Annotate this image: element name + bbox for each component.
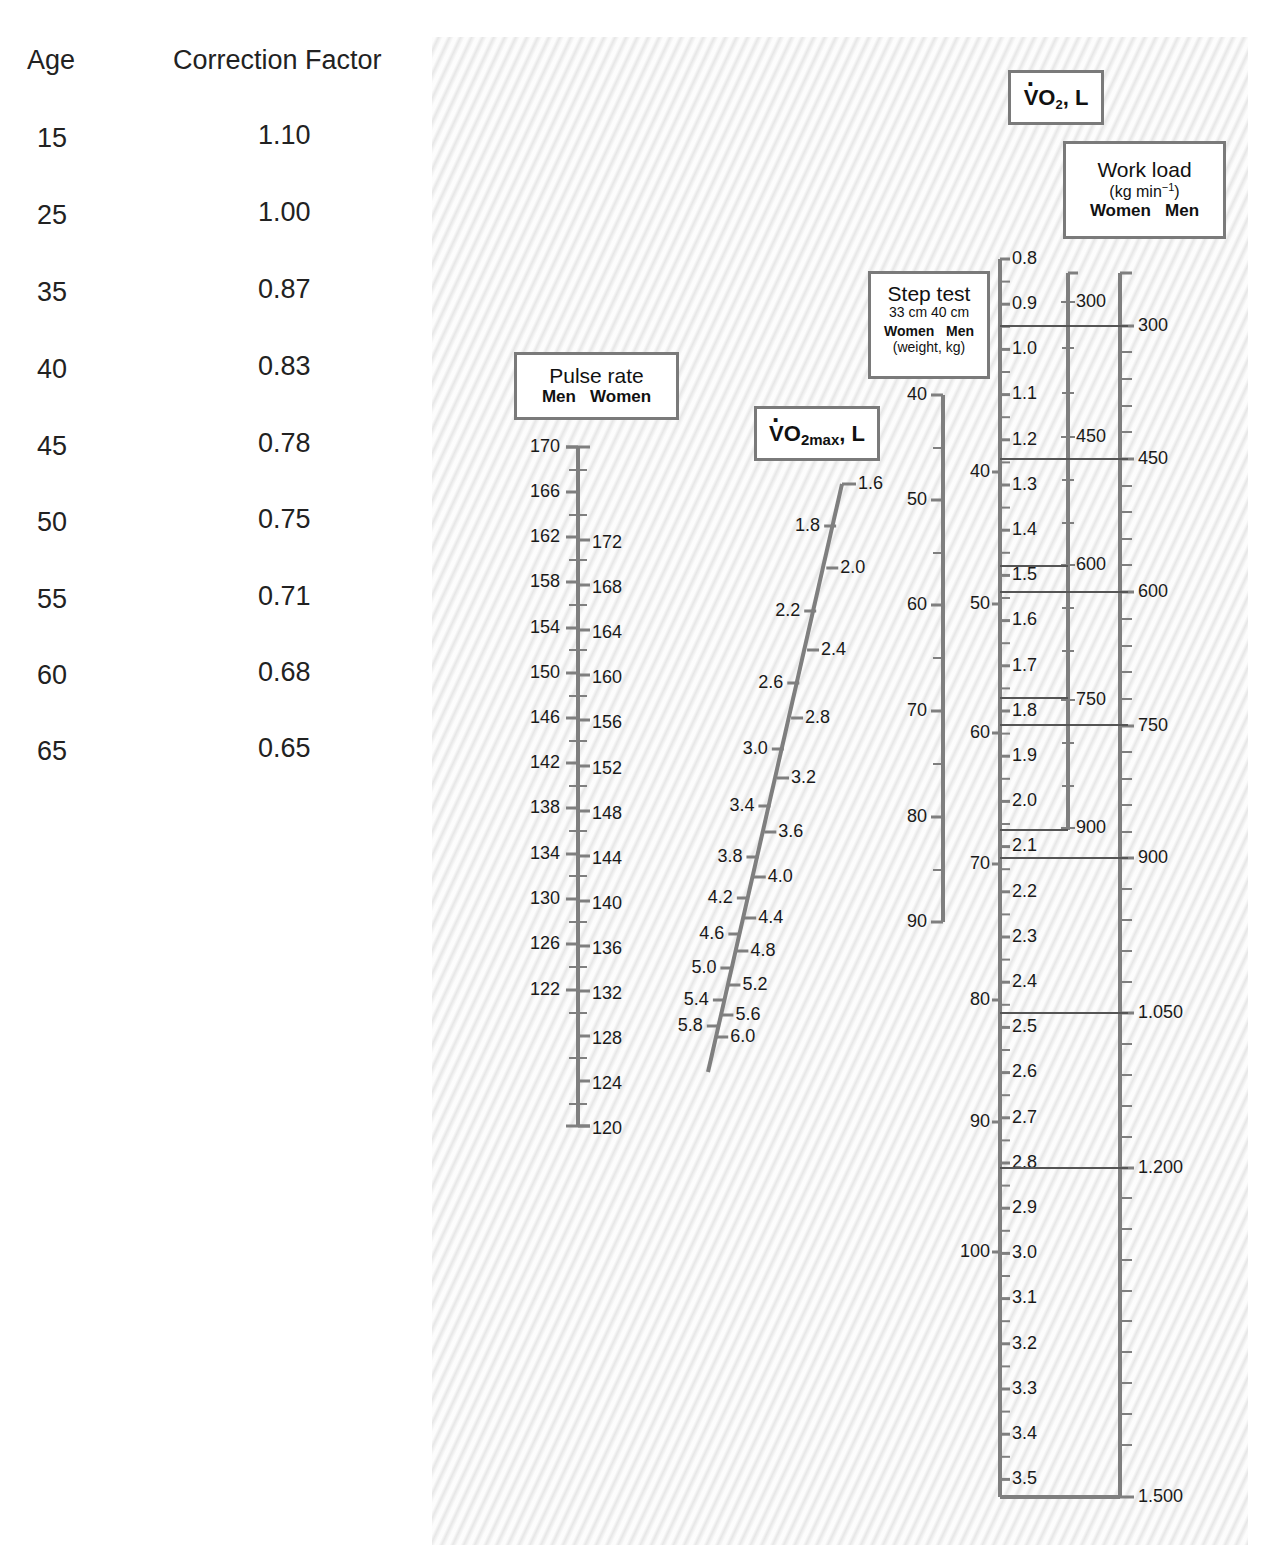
vo2max-left-label: 2.6: [758, 672, 783, 692]
vo2max-left-label: 2.2: [775, 600, 800, 620]
workload-unit-text: (kg min: [1109, 183, 1161, 200]
step-men-label: 100: [960, 1241, 990, 1261]
vo2max-o: O: [784, 421, 801, 446]
vo2-label-tick: 2.1: [1012, 835, 1037, 855]
workload-men-label: 600: [1138, 581, 1168, 601]
vo2-label-tick: 3.0: [1012, 1242, 1037, 1262]
workload-sex: Women Men: [1066, 201, 1223, 221]
vo2max-left-label: 1.8: [795, 515, 820, 535]
vo2-label-tick: 1.7: [1012, 655, 1037, 675]
vo2-label-tick: 1.2: [1012, 429, 1037, 449]
pulse-men-label: 138: [530, 797, 560, 817]
vo2max-right-label: 4.0: [768, 866, 793, 886]
vo2-label: VO2, L: [1008, 70, 1104, 125]
workload-women-label: 600: [1076, 554, 1106, 574]
step-women-label: 60: [907, 594, 927, 614]
pulse-men-label: 146: [530, 707, 560, 727]
workload-men-label: 300: [1138, 315, 1168, 335]
vo2-o: O: [1038, 85, 1055, 110]
vo2max-left-label: 5.4: [684, 989, 709, 1009]
pulse-women-label: 144: [592, 848, 622, 868]
step-test-label: Step test 33 cm 40 cm Women Men (weight,…: [868, 271, 990, 379]
workload-unit-close: ): [1174, 183, 1179, 200]
vo2-label-tick: 0.9: [1012, 293, 1037, 313]
pulse-women-label: 128: [592, 1028, 622, 1048]
vo2-label-tick: 1.3: [1012, 474, 1037, 494]
pulse-men-label: 150: [530, 662, 560, 682]
pulse-women-label: 172: [592, 532, 622, 552]
vo2-label-tick: 2.2: [1012, 881, 1037, 901]
vo2-label-tick: 2.0: [1012, 790, 1037, 810]
vo2max-left-label: 3.0: [743, 738, 768, 758]
vo2max-unit: , L: [839, 421, 865, 446]
vo2-unit: , L: [1063, 85, 1089, 110]
vo2max-right-label: 2.4: [821, 639, 846, 659]
pulse-rate-label: Pulse rate Men Women: [514, 352, 679, 420]
vo2-label-tick: 3.5: [1012, 1468, 1037, 1488]
vo2-label-tick: 3.3: [1012, 1378, 1037, 1398]
pulse-women-label: 148: [592, 803, 622, 823]
step-women-label: 80: [907, 806, 927, 826]
pulse-women-label: 152: [592, 758, 622, 778]
pulse-women-label: 124: [592, 1073, 622, 1093]
pulse-men-label: 162: [530, 526, 560, 546]
step-women-label: 40: [907, 384, 927, 404]
pulse-rate-title: Pulse rate: [517, 364, 676, 387]
vo2max-right-label: 1.6: [858, 473, 883, 493]
workload-men-label: 1.200: [1138, 1157, 1183, 1177]
step-men-label: 90: [970, 1111, 990, 1131]
pulse-women-label: 140: [592, 893, 622, 913]
vo2-label-tick: 3.4: [1012, 1423, 1037, 1443]
vo2-label-tick: 1.0: [1012, 338, 1037, 358]
workload-women-label: 450: [1076, 426, 1106, 446]
vo2max-subscript: 2max: [801, 431, 839, 448]
workload-label: Work load (kg min−1) Women Men: [1063, 141, 1226, 239]
pulse-rate-subtitle: Men Women: [517, 387, 676, 407]
workload-women-label: 750: [1076, 689, 1106, 709]
step-men-label: 40: [970, 461, 990, 481]
pulse-women-label: 168: [592, 577, 622, 597]
vo2max-v: V: [769, 421, 784, 446]
pulse-men-label: 170: [530, 436, 560, 456]
vo2max-right-label: 3.2: [791, 767, 816, 787]
vo2-label-tick: 3.2: [1012, 1333, 1037, 1353]
vo2-label-tick: 2.4: [1012, 971, 1037, 991]
vo2max-left-label: 5.0: [691, 957, 716, 977]
vo2-label-tick: 1.5: [1012, 564, 1037, 584]
vo2max-left-label: 4.2: [708, 887, 733, 907]
pulse-men-label: 126: [530, 933, 560, 953]
pulse-men-label: 122: [530, 979, 560, 999]
workload-unit-exponent: −1: [1162, 181, 1175, 193]
workload-men-label: 750: [1138, 715, 1168, 735]
workload-women-label: 900: [1076, 817, 1106, 837]
step-test-sex: Women Men: [871, 323, 987, 340]
step-men-label: 50: [970, 593, 990, 613]
vo2-label-tick: 0.8: [1012, 248, 1037, 268]
vo2max-axis: [708, 484, 842, 1072]
vo2-label-tick: 1.9: [1012, 745, 1037, 765]
vo2-label-tick: 2.7: [1012, 1107, 1037, 1127]
vo2max-label: VO2max, L: [754, 406, 880, 461]
workload-men-label: 1.500: [1138, 1486, 1183, 1506]
pulse-women-label: 132: [592, 983, 622, 1003]
step-women-label: 70: [907, 700, 927, 720]
workload-women-label: 300: [1076, 291, 1106, 311]
vo2max-right-label: 4.4: [758, 907, 783, 927]
step-women-label: 50: [907, 489, 927, 509]
pulse-men-label: 166: [530, 481, 560, 501]
vo2max-right-label: 4.8: [750, 940, 775, 960]
pulse-men-label: 158: [530, 571, 560, 591]
pulse-men-label: 142: [530, 752, 560, 772]
vo2-label-tick: 1.8: [1012, 700, 1037, 720]
vo2-subscript: 2: [1055, 97, 1062, 112]
pulse-men-label: 154: [530, 617, 560, 637]
pulse-women-label: 164: [592, 622, 622, 642]
vo2max-right-label: 3.6: [778, 821, 803, 841]
vo2max-left-label: 5.8: [678, 1015, 703, 1035]
workload-men-label: 1.050: [1138, 1002, 1183, 1022]
vo2max-left-label: 3.8: [717, 846, 742, 866]
vo2-label-tick: 2.3: [1012, 926, 1037, 946]
vo2max-right-label: 6.0: [730, 1026, 755, 1046]
pulse-women-label: 160: [592, 667, 622, 687]
workload-men-label: 900: [1138, 847, 1168, 867]
